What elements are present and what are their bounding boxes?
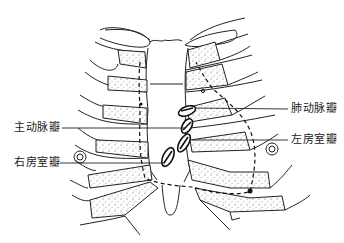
clavicles	[100, 18, 245, 47]
left-ribs	[186, 34, 310, 230]
label-aortic-valve: 主动脉瓣	[14, 122, 60, 134]
label-pulmonary-valve: 肺动脉瓣	[291, 103, 337, 115]
valves	[159, 104, 197, 168]
label-mitral-valve: 左房室瓣	[291, 134, 337, 146]
label-tricuspid-valve: 右房室瓣	[14, 157, 60, 169]
right-ribs	[70, 42, 158, 235]
